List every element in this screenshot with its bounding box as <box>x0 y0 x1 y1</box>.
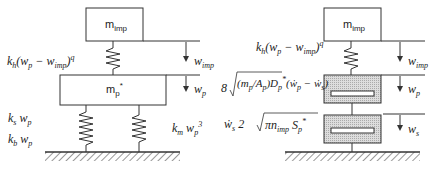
w-imp-label: wimp <box>194 55 214 70</box>
contact-spring <box>106 41 120 75</box>
linear-stiffness-label: ks wp <box>8 112 31 127</box>
plate-damper-box <box>324 75 381 103</box>
impactor-mass-label-right: mimp <box>343 19 365 33</box>
ground-right <box>285 152 420 161</box>
w-s-label-right: ws <box>408 123 419 138</box>
plate-damping-fraction: (mp/Ap)Dp*(ẇp − ẇs) <box>237 76 328 92</box>
w-imp-label-right: wimp <box>408 55 428 70</box>
mechanical-model-diagram <box>0 0 431 175</box>
w-p-label: wp <box>194 83 206 98</box>
support-damping-root: πnimp Sp* <box>265 118 306 134</box>
plate-damping-label: 8 <box>221 82 227 94</box>
ground <box>45 152 180 161</box>
impactor-mass-label: mimp <box>105 19 127 33</box>
w-p-label-right: wp <box>408 83 420 98</box>
bending-stiffness-label: kb wp <box>8 133 32 148</box>
contact-spring-right <box>344 41 358 75</box>
contact-force-label-right: kh(wp − wimp)q <box>256 40 323 56</box>
plate-mass-label: mp* <box>106 82 123 98</box>
nonlinear-spring <box>132 105 146 152</box>
linear-spring <box>79 105 93 152</box>
support-damping-label: ẇs 2 <box>224 118 244 133</box>
contact-force-label: kh(wp − wimp)q <box>7 54 74 70</box>
membrane-stiffness-label: km wp3 <box>172 121 202 137</box>
